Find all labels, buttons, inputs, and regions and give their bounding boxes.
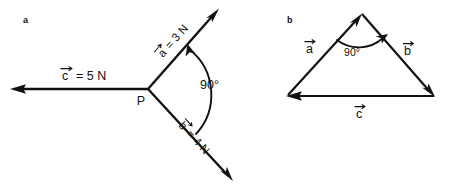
angle-label-panel-a: 90° bbox=[200, 78, 219, 92]
label-c-value: = 5 N bbox=[76, 69, 106, 83]
label-a-symbol-b: a bbox=[306, 42, 313, 56]
physics-vector-figure: a P 90° bbox=[0, 0, 452, 189]
panel-b-letter: b bbox=[287, 15, 293, 25]
label-vector-a-panel-a: a = 3 N bbox=[153, 21, 190, 61]
point-p-label: P bbox=[137, 94, 145, 108]
angle-label-panel-b: 90° bbox=[344, 46, 360, 58]
label-vector-b-panel-b: b bbox=[403, 42, 413, 59]
panel-a-group: a P 90° bbox=[10, 9, 233, 182]
label-vector-a-panel-b: a bbox=[305, 40, 315, 57]
label-c-symbol-b: c bbox=[356, 107, 362, 121]
label-vector-c-panel-a: c = 5 N bbox=[61, 66, 107, 83]
vector-c-panel-a bbox=[10, 84, 148, 94]
vector-b-panel-b bbox=[362, 14, 435, 97]
label-c-symbol: c bbox=[62, 69, 68, 83]
label-vector-b-panel-a: b = 4 N bbox=[176, 117, 214, 156]
vector-b-shaft-b bbox=[362, 14, 428, 90]
panel-b-group: b 90° bbox=[286, 14, 435, 122]
vector-b-shaft bbox=[148, 89, 226, 174]
label-vector-c-panel-b: c bbox=[355, 105, 365, 122]
vector-c-panel-b bbox=[286, 91, 434, 101]
panel-a-letter: a bbox=[23, 15, 29, 25]
figure-canvas: a P 90° bbox=[0, 0, 452, 189]
label-b-symbol-b: b bbox=[404, 44, 411, 58]
